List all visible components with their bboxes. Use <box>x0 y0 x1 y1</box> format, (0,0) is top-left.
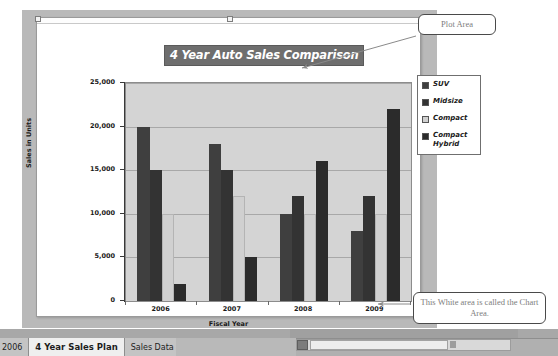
bar-suv-2007[interactable] <box>209 144 221 301</box>
x-category-label-2007: 2007 <box>212 305 252 313</box>
gridline <box>126 170 411 171</box>
bar-midsize-2006[interactable] <box>150 170 162 301</box>
y-axis-title[interactable]: Sales in Units <box>25 118 33 168</box>
legend-swatch-icon <box>422 133 429 140</box>
sheet-tab-2006[interactable]: 2006 <box>0 338 29 356</box>
callout-plot-area: Plot Area <box>418 14 496 35</box>
bar-compact-hybrid-2009[interactable] <box>387 109 399 301</box>
bar-compact-hybrid-2008[interactable] <box>316 161 328 301</box>
bar-compact-2009[interactable] <box>375 214 387 301</box>
bar-midsize-2009[interactable] <box>363 196 375 301</box>
bar-compact-hybrid-2007[interactable] <box>245 257 257 301</box>
legend-item-label: Midsize <box>433 97 463 106</box>
resize-handle-top-left[interactable] <box>35 16 41 22</box>
x-axis-title[interactable]: Fiscal Year <box>37 320 420 328</box>
legend-item-compact-hybrid[interactable]: Compact Hybrid <box>422 131 477 149</box>
sheet-tab-filler <box>176 338 296 356</box>
legend-swatch-icon <box>422 116 429 123</box>
legend-item-suv[interactable]: SUV <box>422 80 477 89</box>
chart-legend[interactable]: SUVMidsizeCompactCompact Hybrid <box>417 75 481 155</box>
spreadsheet-chart-screen: 4 Year Auto Sales Comparison 25,00020,00… <box>0 0 558 356</box>
legend-swatch-icon <box>422 82 429 89</box>
legend-item-label: Compact <box>433 114 467 123</box>
legend-item-midsize[interactable]: Midsize <box>422 97 477 106</box>
y-tick-label: 25,000 <box>75 78 115 86</box>
y-tick-label: 10,000 <box>75 209 115 217</box>
bar-compact-2007[interactable] <box>233 196 245 301</box>
gridline <box>126 127 411 128</box>
legend-item-compact[interactable]: Compact <box>422 114 477 123</box>
scrollbar-thumb[interactable] <box>310 340 448 350</box>
worksheet-background-right <box>422 10 437 328</box>
sheet-tab-4-year-sales-plan[interactable]: 4 Year Sales Plan <box>29 338 124 356</box>
top-strip <box>0 0 558 10</box>
scrollbar-backdrop <box>290 329 518 338</box>
x-category-label-2009: 2009 <box>354 305 394 313</box>
legend-item-label: Compact Hybrid <box>433 131 477 149</box>
y-tick-label: 20,000 <box>75 122 115 130</box>
bar-midsize-2007[interactable] <box>221 170 233 301</box>
scrollbar-grip[interactable] <box>450 341 456 348</box>
chart-title[interactable]: 4 Year Auto Sales Comparison <box>164 45 364 66</box>
resize-handle-top-middle[interactable] <box>227 16 233 22</box>
x-tick <box>196 301 197 305</box>
x-tick <box>339 301 340 305</box>
sheet-tabs: 20064 Year Sales PlanSales Data⤲ <box>0 338 202 356</box>
x-tick <box>268 301 269 305</box>
x-category-label-2006: 2006 <box>141 305 181 313</box>
sheet-tab-sales-data[interactable]: Sales Data <box>125 338 181 356</box>
plot-area-wrap <box>125 82 410 300</box>
y-tick-label: 5,000 <box>75 252 115 260</box>
gridline <box>126 83 411 84</box>
bar-suv-2008[interactable] <box>280 214 292 301</box>
legend-item-label: SUV <box>433 80 449 89</box>
plot-area[interactable] <box>125 82 412 302</box>
x-category-label-2008: 2008 <box>283 305 323 313</box>
bar-compact-hybrid-2006[interactable] <box>174 284 186 301</box>
scroll-left-button[interactable] <box>297 340 308 350</box>
bar-midsize-2008[interactable] <box>292 196 304 301</box>
y-tick-label: 0 <box>75 296 115 304</box>
bar-compact-2006[interactable] <box>162 214 174 301</box>
bar-compact-2008[interactable] <box>304 214 316 301</box>
x-tick <box>410 301 411 305</box>
chart-area[interactable]: 4 Year Auto Sales Comparison 25,00020,00… <box>36 17 421 317</box>
y-tick-label: 15,000 <box>75 165 115 173</box>
bar-suv-2009[interactable] <box>351 231 363 301</box>
legend-swatch-icon <box>422 99 429 106</box>
callout-chart-area: This White area is called the Chart Area… <box>413 292 546 324</box>
bar-suv-2006[interactable] <box>137 127 149 301</box>
x-tick <box>125 301 126 305</box>
